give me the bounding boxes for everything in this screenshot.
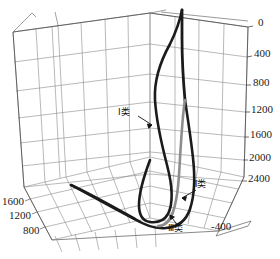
bottom-right-axis-tick-labels: -400 (211, 220, 232, 232)
tick-label-right-3: 1200 (251, 103, 274, 115)
right-axis-tick-labels: 0 400 800 1200 1600 2000 2400 (248, 16, 274, 184)
tick-label-right-6: 2400 (248, 172, 271, 184)
curve-class-3 (71, 100, 194, 228)
tick-label-right-2: 800 (253, 76, 270, 88)
plot-canvas: 0 400 800 1200 1600 2000 2400 1600 1200 … (0, 0, 280, 259)
tick-label-right-4: 1600 (250, 128, 273, 140)
tick-label-right-0: 0 (258, 16, 264, 28)
tick-label-right-5: 2000 (249, 151, 272, 163)
axis-spines (13, 13, 248, 240)
figure-3d-plot: 0 400 800 1200 1600 2000 2400 1600 1200 … (0, 0, 280, 259)
tick-label-left-2: 800 (23, 224, 40, 236)
annotation-class-3-label: Ⅲ类 (168, 222, 183, 233)
tick-label-right-1: 400 (254, 47, 271, 59)
floor-front-extension (55, 225, 156, 252)
tick-label-left-1: 1200 (9, 209, 32, 221)
back-left-wall-grid (13, 13, 150, 187)
left-axis-tick-labels: 1600 1200 800 (2, 195, 40, 236)
annotation-class-1-label: Ⅰ类 (118, 106, 130, 117)
tick-label-bottomright-0: -400 (211, 220, 232, 232)
annotation-class-2-label: Ⅱ类 (193, 178, 206, 189)
tick-label-left-0: 1600 (2, 195, 25, 207)
